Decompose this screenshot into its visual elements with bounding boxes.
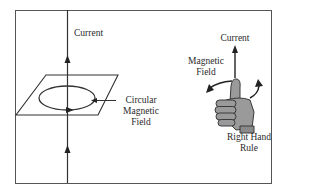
right-hand-rule-label-line2: Rule bbox=[224, 143, 274, 154]
right-hand-rule-label-line1: Right Hand bbox=[224, 132, 274, 143]
magnetic-field-label-line2: Field bbox=[186, 67, 226, 78]
rhr-field-curl-left bbox=[210, 81, 232, 88]
current-arrow-lower-icon bbox=[65, 145, 71, 153]
rhr-field-arrowhead-right-icon bbox=[255, 79, 263, 87]
circular-field-label-line3: Field bbox=[118, 117, 164, 128]
left-current-label: Current bbox=[74, 28, 103, 39]
right-current-label: Current bbox=[218, 33, 252, 44]
circular-field-label-line1: Circular bbox=[118, 95, 164, 106]
right-hand-icon bbox=[215, 79, 254, 133]
current-arrow-upper-icon bbox=[65, 55, 71, 63]
magnetic-field-label-line1: Magnetic bbox=[186, 56, 226, 67]
rhr-field-curl-right bbox=[250, 86, 259, 98]
rhr-current-arrowhead-icon bbox=[232, 45, 238, 53]
field-direction-arrow-icon bbox=[66, 107, 74, 113]
circular-field-label-line2: Magnetic bbox=[118, 106, 164, 117]
